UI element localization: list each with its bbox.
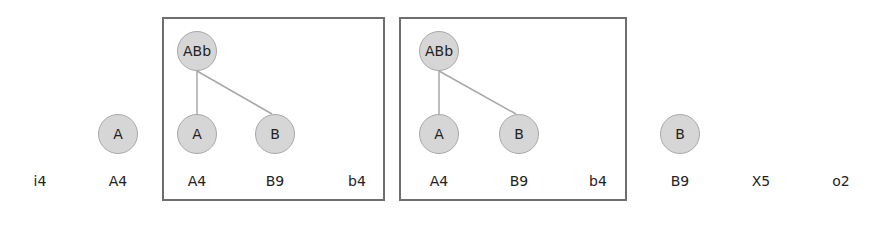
node-a-1: A [177, 114, 217, 154]
token-label: b4 [348, 173, 366, 189]
node-abb-1: ABb [177, 31, 217, 71]
token-label: A4 [109, 173, 127, 189]
token-label: A4 [188, 173, 206, 189]
token-label: B9 [671, 173, 690, 189]
token-label: B9 [266, 173, 285, 189]
token-label: X5 [752, 173, 771, 189]
token-label: i4 [34, 173, 47, 189]
token-label: B9 [510, 173, 529, 189]
node-abb-2: ABb [419, 31, 459, 71]
node-a-standalone: A [98, 114, 138, 154]
token-label: A4 [430, 173, 448, 189]
token-label: o2 [832, 173, 849, 189]
node-a-2: A [419, 114, 459, 154]
node-b-1: B [255, 114, 295, 154]
node-b-2: B [499, 114, 539, 154]
node-b-standalone: B [660, 114, 700, 154]
token-label: b4 [589, 173, 607, 189]
